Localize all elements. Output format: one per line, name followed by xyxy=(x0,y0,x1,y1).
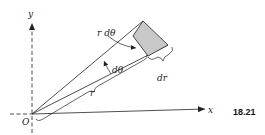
upper-ray xyxy=(32,21,143,114)
origin-label: O xyxy=(22,117,30,127)
radius-label: r xyxy=(90,88,95,98)
polar-area-element-diagram: y x O r dθ dθ dr r 18.21 xyxy=(0,0,265,135)
y-axis-label: y xyxy=(27,9,34,19)
x-axis-label: x xyxy=(208,105,213,115)
radial-increment-label: dr xyxy=(157,73,168,83)
angle-label: dθ xyxy=(112,65,124,75)
arc-length-label: r dθ xyxy=(97,28,116,38)
shaded-area-element xyxy=(133,21,168,56)
angle-arc xyxy=(104,61,111,74)
figure-number: 18.21 xyxy=(233,107,256,117)
